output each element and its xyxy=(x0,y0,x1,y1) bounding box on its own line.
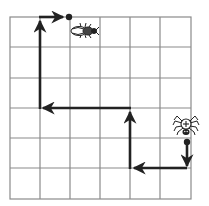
spider-icon xyxy=(173,116,199,135)
path xyxy=(39,14,190,169)
beetle-icon xyxy=(71,23,99,38)
end-dot xyxy=(66,14,72,20)
grid-diagram xyxy=(0,0,209,206)
